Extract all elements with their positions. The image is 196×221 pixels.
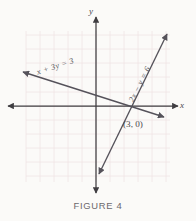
intersection-point-label: (3, 0) (123, 119, 143, 129)
figure-caption: FIGURE 4 (0, 200, 196, 211)
coordinate-graph (0, 0, 196, 221)
line-2x-minus-y-equals-6 (99, 34, 167, 174)
figure-container: x + 3y = 3 2x − y = 6 y x (3, 0) FIGURE … (0, 0, 196, 221)
y-axis-label: y (89, 6, 93, 16)
x-axis-label: x (180, 100, 184, 110)
